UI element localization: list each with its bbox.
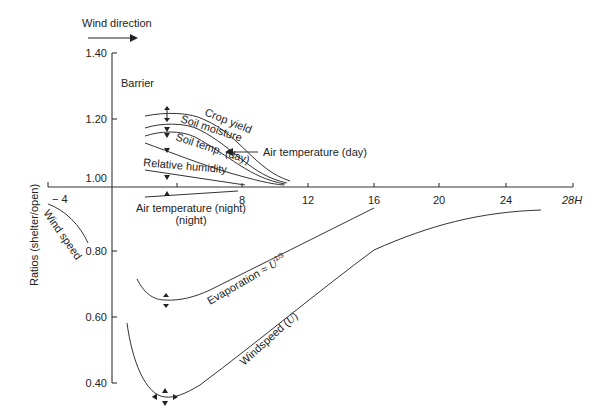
chart: Wind direction 1.40 1.20 1.00 0.80 0.60 … xyxy=(0,0,604,419)
x-tick-label: 12 xyxy=(302,194,314,206)
y-tick-label: 1.20 xyxy=(86,113,107,125)
wind-direction-label: Wind direction xyxy=(82,17,152,29)
air-temp-night-sub: (night) xyxy=(175,214,206,226)
windspeed-u-label: Windspeed (U) xyxy=(237,309,300,367)
y-tick-label: 1.00 xyxy=(86,172,107,184)
x-tick-label: − 4 xyxy=(52,193,68,205)
relative-humidity-label: Relative humidity xyxy=(143,156,228,175)
wind-direction-arrow-icon xyxy=(88,34,138,42)
evaporation-curve xyxy=(137,208,374,300)
air-temp-night-curve xyxy=(145,191,238,197)
y-axis-label: Ratios (shelter/open) xyxy=(28,184,40,286)
x-tick-label: 28H xyxy=(561,194,582,206)
evaporation-label: Evaporation ≈ U1/3 xyxy=(205,251,288,307)
barrier-label: Barrier xyxy=(121,77,154,89)
x-tick-label: 24 xyxy=(500,194,512,206)
y-tick-label: 0.60 xyxy=(86,311,107,323)
y-tick-label: 0.40 xyxy=(86,377,107,389)
y-axis: 1.40 1.20 1.00 0.80 0.60 0.40 xyxy=(86,47,117,389)
x-tick-label: 20 xyxy=(433,194,445,206)
wind-speed-label: Wind speed xyxy=(41,207,84,261)
x-tick-label: 16 xyxy=(368,194,380,206)
windspeed-u-curve xyxy=(127,210,541,397)
y-tick-label: 1.40 xyxy=(86,47,107,59)
air-temp-night-label: Air temperature (night) xyxy=(136,202,246,214)
air-temp-day-label: Air temperature (day) xyxy=(263,146,367,158)
x-axis: − 4 8 12 16 20 24 28H xyxy=(48,182,582,206)
y-tick-label: 0.80 xyxy=(86,245,107,257)
